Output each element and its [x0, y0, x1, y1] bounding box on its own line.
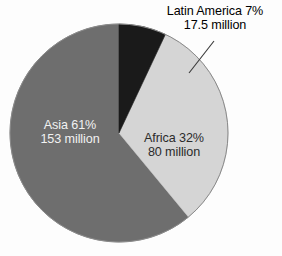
pie-label-asia-line2: 153 million — [24, 132, 116, 146]
pie-label-asia-line1: Asia 61% — [24, 118, 116, 132]
pie-label-africa: Africa 32% 80 million — [128, 131, 220, 160]
pie-label-africa-line2: 80 million — [128, 145, 220, 159]
pie-label-africa-line1: Africa 32% — [128, 131, 220, 145]
pie-label-latin-america: Latin America 7% 17.5 million — [150, 4, 280, 33]
pie-chart-figure: Latin America 7% 17.5 million Africa 32%… — [0, 0, 282, 256]
pie-label-asia: Asia 61% 153 million — [24, 118, 116, 147]
pie-label-latin-america-line2: 17.5 million — [150, 18, 280, 32]
pie-label-latin-america-line1: Latin America 7% — [150, 4, 280, 18]
